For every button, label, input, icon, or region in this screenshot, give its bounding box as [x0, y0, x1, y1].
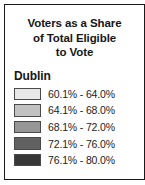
- legend-content: Voters as a Share of Total Eligible to V…: [5, 5, 137, 168]
- legend-item: 76.1% - 80.0%: [12, 152, 137, 169]
- legend-title-line-2: of Total Eligible: [14, 31, 136, 46]
- legend-subheading-dublin: Dublin: [14, 69, 137, 83]
- legend-color-swatch: [14, 121, 41, 134]
- legend-color-swatch: [14, 154, 41, 167]
- legend-range-label: 64.1% - 68.0%: [48, 104, 115, 116]
- legend-range-label: 60.1% - 64.0%: [48, 88, 115, 100]
- legend-item: 64.1% - 68.0%: [12, 102, 137, 119]
- legend-color-swatch: [14, 104, 41, 117]
- legend-range-label: 76.1% - 80.0%: [48, 154, 115, 166]
- legend-title-line-1: Voters as a Share: [14, 16, 136, 31]
- legend-color-swatch: [14, 137, 41, 150]
- legend-item: 68.1% - 72.0%: [12, 119, 137, 136]
- legend-item: 60.1% - 64.0%: [12, 86, 137, 103]
- legend-range-label: 72.1% - 76.0%: [48, 138, 115, 150]
- legend-class-list: 60.1% - 64.0% 64.1% - 68.0% 68.1% - 72.0…: [12, 86, 137, 169]
- legend-title: Voters as a Share of Total Eligible to V…: [14, 16, 136, 60]
- legend-title-line-3: to Vote: [14, 45, 136, 60]
- legend-color-swatch: [14, 88, 41, 101]
- map-legend-panel: Voters as a Share of Total Eligible to V…: [4, 4, 137, 180]
- legend-item: 72.1% - 76.0%: [12, 135, 137, 152]
- legend-range-label: 68.1% - 72.0%: [48, 121, 115, 133]
